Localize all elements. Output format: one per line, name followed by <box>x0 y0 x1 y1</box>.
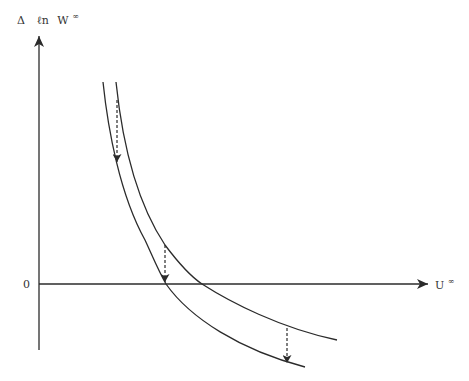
y-axis-label: Δ ℓn W ∞ <box>17 12 79 27</box>
x-axis-label: U ∞ <box>435 277 454 292</box>
origin-label: 0 <box>23 278 30 291</box>
lower-curve <box>103 82 305 367</box>
y-var-superscript: ∞ <box>72 12 79 21</box>
delta-symbol: Δ <box>17 14 25 27</box>
diagram-canvas: Δ ℓn W ∞ U ∞ 0 <box>0 0 469 381</box>
ln-symbol: ℓn <box>36 14 48 27</box>
x-var-superscript: ∞ <box>448 277 455 286</box>
x-var: U <box>435 279 444 292</box>
upper-curve <box>116 82 337 340</box>
y-var: W <box>57 14 69 27</box>
